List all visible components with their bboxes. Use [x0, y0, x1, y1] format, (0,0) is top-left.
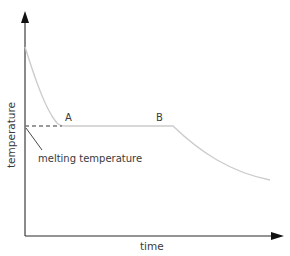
y-axis-label: temperature	[5, 102, 17, 168]
y-axis-arrow-icon	[21, 11, 29, 23]
point-a-label: A	[65, 112, 72, 123]
melting-temperature-label: melting temperature	[38, 153, 142, 164]
cooling-curve-diagram: A B melting temperature time temperature	[0, 0, 290, 256]
point-b-label: B	[156, 112, 163, 123]
melting-leader-line	[26, 128, 42, 150]
x-axis-label: time	[140, 240, 164, 252]
x-axis-arrow-icon	[271, 232, 284, 240]
